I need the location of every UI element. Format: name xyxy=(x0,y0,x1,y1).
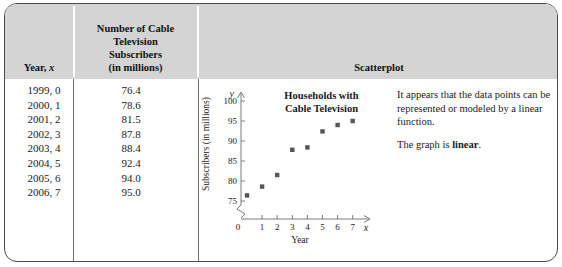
subscribers-line-1: Number of Cable xyxy=(97,22,174,35)
data-table-body: 1999, 076.42000, 178.62001, 281.52002, 3… xyxy=(5,83,198,200)
column-header-subscribers-text: Number of Cable Television Subscribers (… xyxy=(97,22,174,74)
table-row: 2002, 387.8 xyxy=(5,127,198,142)
table-row: 2000, 178.6 xyxy=(5,98,198,113)
svg-text:90: 90 xyxy=(228,136,238,146)
cell-subscribers: 87.8 xyxy=(74,127,198,142)
commentary-paragraph-1: It appears that the data points can be r… xyxy=(397,88,555,129)
table-row: 1999, 076.4 xyxy=(5,83,198,98)
column-header-scatterplot: Scatterplot xyxy=(199,4,558,79)
cell-year: 2001, 2 xyxy=(5,112,73,127)
table-row: 2004, 592.4 xyxy=(5,156,198,171)
data-point xyxy=(290,148,294,152)
cell-year: 2002, 3 xyxy=(5,127,73,142)
table-row: 2006, 795.0 xyxy=(5,185,198,200)
cell-year: 2003, 4 xyxy=(5,141,73,156)
cell-year: 2006, 7 xyxy=(5,185,73,200)
cell-year: 1999, 0 xyxy=(5,83,73,98)
data-point xyxy=(305,145,309,149)
svg-text:75: 75 xyxy=(228,196,238,206)
svg-text:7: 7 xyxy=(350,222,355,232)
svg-text:85: 85 xyxy=(228,156,238,166)
column-header-year-variable: x xyxy=(49,62,54,73)
subscribers-line-4: (in millions) xyxy=(97,61,174,74)
table-header-band: Year, x Number of Cable Television Subsc… xyxy=(5,4,557,79)
figure-frame: Year, x Number of Cable Television Subsc… xyxy=(4,3,558,262)
subscribers-line-3: Subscribers xyxy=(97,48,174,61)
commentary-p2-suffix: . xyxy=(478,139,481,150)
table-row: 2005, 694.0 xyxy=(5,171,198,186)
header-divider-1 xyxy=(73,6,75,77)
svg-text:5: 5 xyxy=(320,222,325,232)
table-row: 2003, 488.4 xyxy=(5,141,198,156)
cell-subscribers: 76.4 xyxy=(74,83,198,98)
column-header-subscribers: Number of Cable Television Subscribers (… xyxy=(74,4,197,79)
table-row: 2001, 281.5 xyxy=(5,112,198,127)
cell-subscribers: 78.6 xyxy=(74,98,198,113)
svg-text:1: 1 xyxy=(260,222,265,232)
data-point xyxy=(275,173,279,177)
subscribers-line-2: Television xyxy=(97,35,174,48)
svg-text:y: y xyxy=(229,88,235,99)
data-point xyxy=(351,119,355,123)
cell-subscribers: 95.0 xyxy=(74,185,198,200)
cell-subscribers: 88.4 xyxy=(74,141,198,156)
commentary-p2-prefix: The graph is xyxy=(397,139,452,150)
svg-text:3: 3 xyxy=(290,222,295,232)
cell-year: 2005, 6 xyxy=(5,171,73,186)
svg-text:80: 80 xyxy=(228,176,238,186)
svg-text:6: 6 xyxy=(335,222,340,232)
svg-text:2: 2 xyxy=(275,222,280,232)
svg-text:95: 95 xyxy=(228,116,238,126)
column-header-year-prefix: Year, xyxy=(24,62,49,73)
cell-subscribers: 94.0 xyxy=(74,171,198,186)
cell-subscribers: 81.5 xyxy=(74,112,198,127)
commentary-text: It appears that the data points can be r… xyxy=(397,88,555,160)
header-divider-2 xyxy=(197,6,199,77)
commentary-p2-emphasis: linear xyxy=(452,139,478,150)
column-header-year-text: Year, x xyxy=(24,61,55,74)
data-point xyxy=(245,193,249,197)
svg-text:x: x xyxy=(363,222,369,233)
data-point xyxy=(260,184,264,188)
cell-year: 2004, 5 xyxy=(5,156,73,171)
cell-subscribers: 92.4 xyxy=(74,156,198,171)
svg-text:4: 4 xyxy=(305,222,310,232)
column-header-year: Year, x xyxy=(5,4,73,79)
data-point xyxy=(320,129,324,133)
svg-text:0: 0 xyxy=(236,222,241,232)
commentary-paragraph-2: The graph is linear. xyxy=(397,138,555,152)
data-point xyxy=(335,123,339,127)
scatterplot-svg: 7580859095100y01234567x xyxy=(199,79,389,239)
scatterplot-panel: Households with Cable Television Subscri… xyxy=(199,79,389,262)
cell-year: 2000, 1 xyxy=(5,98,73,113)
